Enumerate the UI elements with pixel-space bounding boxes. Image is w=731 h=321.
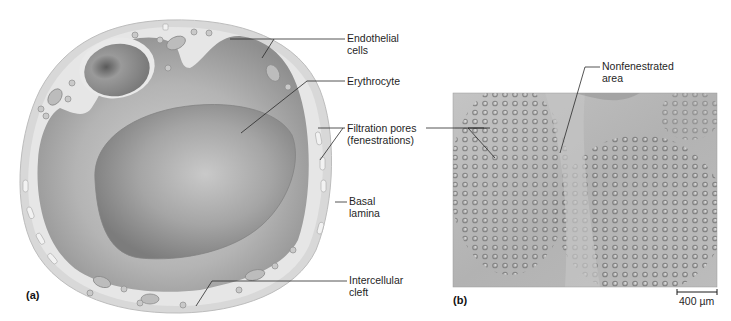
label-nonfenestrated-area: Nonfenestrated area: [602, 60, 674, 84]
figure-capillary-fenestrated: Endothelial cells Erythrocyte Filtration…: [0, 0, 731, 321]
label-basal-lamina: Basal lamina: [349, 195, 380, 219]
label-line: Endothelial: [347, 32, 399, 44]
label-endothelial-cells: Endothelial cells: [347, 32, 399, 56]
label-line: Intercellular: [349, 274, 403, 286]
label-line: cells: [347, 44, 399, 56]
label-line: (fenestrations): [347, 134, 416, 146]
label-line: Basal: [349, 195, 380, 207]
label-line: lamina: [349, 207, 380, 219]
label-line: Filtration pores: [347, 122, 416, 134]
label-erythrocyte: Erythrocyte: [347, 75, 400, 87]
label-filtration-pores: Filtration pores (fenestrations): [347, 122, 416, 146]
panel-letter-b: (b): [453, 294, 467, 306]
scale-bar-label: 400 µm: [679, 295, 714, 307]
freeze-fracture-micrograph: [450, 85, 725, 295]
label-line: Erythrocyte: [347, 75, 400, 87]
label-line: area: [602, 72, 674, 84]
label-line: cleft: [349, 286, 403, 298]
label-intercellular-cleft: Intercellular cleft: [349, 274, 403, 298]
panel-letter-a: (a): [26, 289, 39, 301]
capillary-cross-section: [20, 20, 347, 313]
label-line: Nonfenestrated: [602, 60, 674, 72]
